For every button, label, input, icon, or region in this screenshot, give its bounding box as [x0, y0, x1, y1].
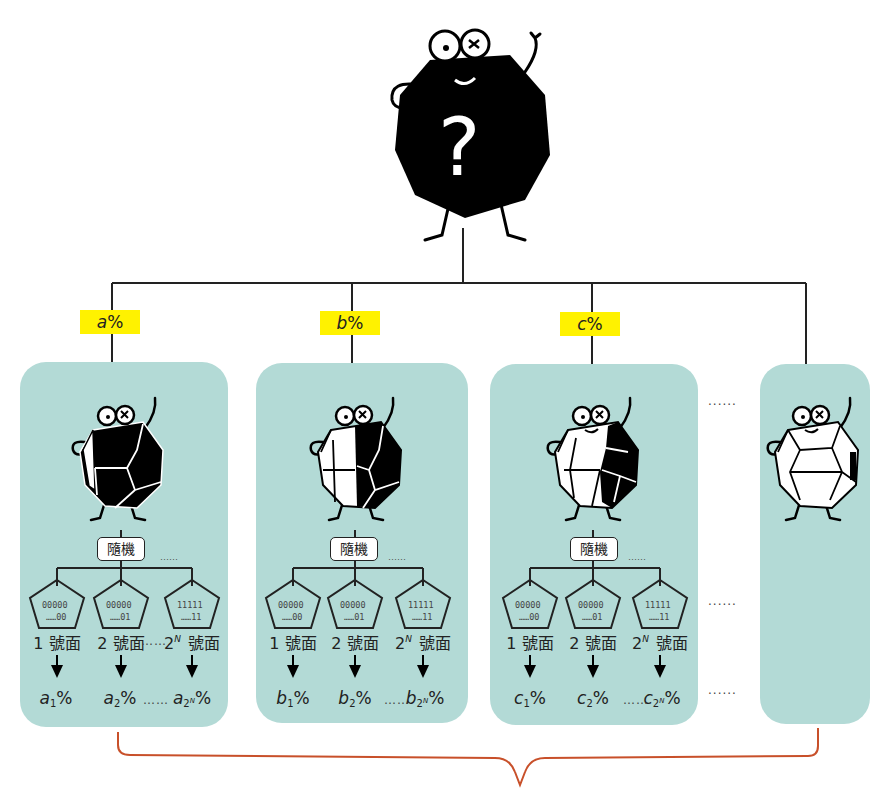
branch-weight-a: a%	[80, 310, 140, 334]
face-2-label-c: 2 號面	[561, 630, 625, 654]
svg-text:00000: 00000	[278, 600, 304, 610]
face-2n-label-a: 2N 號面	[160, 630, 224, 654]
state-character-b-icon	[303, 390, 413, 525]
svg-text:……00: ……00	[282, 612, 302, 622]
state-character-a-icon	[65, 390, 175, 525]
summation-brace	[118, 728, 818, 785]
random-box-a: 隨機	[97, 537, 145, 561]
svg-text:00000: 00000	[340, 600, 366, 610]
face-1-label-c: 1 號面	[498, 630, 562, 654]
prob-b2: b2%	[325, 688, 385, 709]
prob-a2n: a2N%	[162, 688, 222, 709]
branch-weight-c: c%	[560, 312, 620, 336]
prob-c1: c1%	[500, 688, 560, 709]
prob-ellipsis-b: ……	[384, 693, 410, 707]
root-character-icon: ?	[370, 0, 560, 250]
ellipsis-bottom: ······	[708, 687, 737, 701]
svg-text:……: ……	[628, 552, 646, 562]
prob-b1: b1%	[263, 688, 323, 709]
face-1-label-b: 1 號面	[261, 630, 325, 654]
svg-text:00000: 00000	[578, 600, 604, 610]
face-2-label-b: 2 號面	[323, 630, 387, 654]
random-box-c: 隨機	[570, 537, 618, 561]
svg-text:……11: ……11	[412, 612, 432, 622]
ellipsis-top: ······	[708, 398, 737, 412]
face-2n-label-c: 2N 號面	[628, 630, 692, 654]
svg-text:……: ……	[160, 552, 178, 562]
svg-text:……01: ……01	[110, 612, 130, 622]
prob-ellipsis-c: ……	[623, 693, 649, 707]
svg-text:00000: 00000	[515, 600, 541, 610]
face-ellipsis-a: ……	[141, 634, 167, 648]
face-2n-label-b: 2N 號面	[391, 630, 455, 654]
branch-weight-b: b%	[320, 311, 380, 335]
svg-text:……11: ……11	[181, 612, 201, 622]
svg-text:……11: ……11	[649, 612, 669, 622]
svg-text:00000: 00000	[42, 600, 68, 610]
svg-text:11111: 11111	[408, 600, 434, 610]
state-character-c-icon	[540, 390, 650, 525]
prob-c2: c2%	[563, 688, 623, 709]
ellipsis-mid: ······	[708, 598, 737, 612]
svg-text:……00: ……00	[519, 612, 539, 622]
svg-text:……: ……	[388, 552, 406, 562]
svg-text:00000: 00000	[106, 600, 132, 610]
svg-text:……00: ……00	[46, 612, 66, 622]
question-mark: ?	[438, 101, 480, 194]
svg-text:11111: 11111	[645, 600, 671, 610]
svg-text:……01: ……01	[344, 612, 364, 622]
state-character-n-icon	[760, 390, 870, 525]
prob-ellipsis-a: ……	[143, 693, 169, 707]
svg-text:11111: 11111	[177, 600, 203, 610]
svg-text:……01: ……01	[582, 612, 602, 622]
prob-a1: a1%	[26, 688, 86, 709]
prob-a2: a2%	[90, 688, 150, 709]
random-box-b: 隨機	[330, 537, 378, 561]
face-1-label-a: 1 號面	[25, 630, 89, 654]
